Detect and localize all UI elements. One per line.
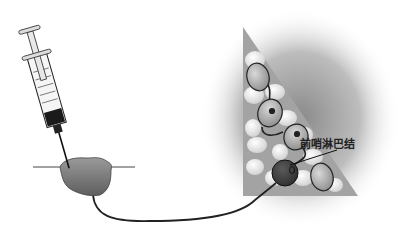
syringe-icon	[14, 24, 83, 173]
sentinel-node-label: 前哨淋巴结	[300, 135, 355, 151]
sentinel-node-diagram	[0, 0, 399, 240]
